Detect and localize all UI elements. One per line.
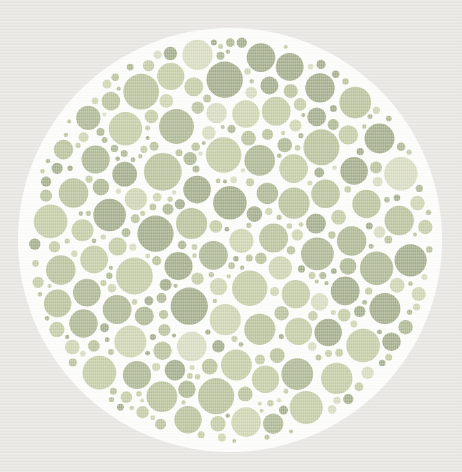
- ishihara-plate: [0, 0, 462, 472]
- ishihara-test-image: [0, 0, 462, 472]
- halftone-texture-overlay: [0, 0, 462, 472]
